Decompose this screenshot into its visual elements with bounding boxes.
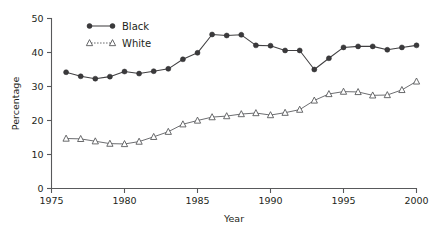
data-point-marker — [253, 110, 259, 116]
legend-item-black: Black — [87, 21, 149, 32]
data-point-marker — [93, 76, 98, 81]
y-axis-tick-label: 20 — [31, 115, 43, 126]
data-point-marker — [297, 48, 302, 53]
data-point-marker — [224, 33, 229, 38]
legend-label: Black — [122, 21, 149, 32]
legend-label: White — [122, 38, 151, 49]
chart-figure: 01020304050197519801985199019952000YearP… — [0, 0, 447, 245]
x-axis-tick-label: 1990 — [258, 195, 282, 206]
chart-series — [63, 32, 420, 147]
line-chart: 01020304050197519801985199019952000YearP… — [0, 0, 447, 245]
x-axis-tick-label: 1995 — [331, 195, 355, 206]
y-axis-tick-label: 50 — [31, 13, 43, 24]
legend-marker-filled-circle — [87, 24, 92, 29]
data-point-marker — [311, 97, 317, 103]
data-point-marker — [210, 32, 215, 37]
y-axis-title: Percentage — [10, 77, 21, 131]
data-point-marker — [78, 74, 83, 79]
x-axis-tick-label: 1985 — [185, 195, 209, 206]
chart-legend: BlackWhite — [86, 21, 151, 49]
data-point-marker — [312, 67, 317, 72]
data-point-marker — [239, 32, 244, 37]
x-axis-tick-label: 1980 — [112, 195, 136, 206]
data-point-marker — [297, 106, 303, 112]
y-axis-tick-label: 30 — [31, 81, 43, 92]
data-point-marker — [165, 128, 171, 134]
y-axis-tick-label: 0 — [37, 183, 43, 194]
data-point-marker — [195, 50, 200, 55]
data-point-marker — [414, 43, 419, 48]
data-point-marker — [326, 56, 331, 61]
chart-axes: 01020304050197519801985199019952000YearP… — [10, 13, 429, 223]
y-axis-tick-label: 10 — [31, 149, 43, 160]
data-point-marker — [122, 69, 127, 74]
data-point-marker — [64, 70, 69, 75]
data-point-marker — [107, 74, 112, 79]
series-line — [66, 34, 416, 78]
data-point-marker — [385, 47, 390, 52]
y-axis-tick-label: 40 — [31, 47, 43, 58]
data-point-marker — [399, 45, 404, 50]
data-point-marker — [370, 44, 375, 49]
data-point-marker — [166, 66, 171, 71]
data-point-marker — [341, 45, 346, 50]
x-axis-tick-label: 1975 — [39, 195, 63, 206]
data-point-marker — [413, 78, 419, 84]
series-black — [64, 32, 419, 81]
legend-item-white: White — [86, 38, 151, 49]
data-point-marker — [356, 44, 361, 49]
x-axis-tick-label: 2000 — [404, 195, 428, 206]
data-point-marker — [399, 87, 405, 93]
series-white — [63, 78, 420, 147]
x-axis-title: Year — [223, 213, 244, 224]
data-point-marker — [180, 57, 185, 62]
data-point-marker — [253, 43, 258, 48]
data-point-marker — [151, 69, 156, 74]
data-point-marker — [268, 43, 273, 48]
data-point-marker — [283, 48, 288, 53]
legend-marker-filled-circle — [110, 24, 115, 29]
data-point-marker — [137, 71, 142, 76]
